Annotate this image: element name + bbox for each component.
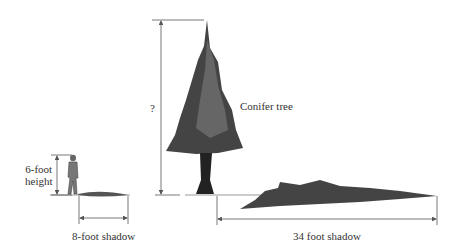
diagram-graphics bbox=[0, 0, 458, 252]
person-shadow-dimension bbox=[79, 196, 128, 224]
tree-shadow-shape bbox=[240, 180, 437, 209]
shadow-diagram: 6-foot height 8-foot shadow ? Conifer tr… bbox=[0, 0, 458, 252]
tree-shadow-label: 34 foot shadow bbox=[293, 230, 361, 242]
person-height-label: 6-foot height bbox=[25, 163, 53, 187]
person-figure bbox=[68, 155, 128, 197]
person-shadow-shape bbox=[78, 192, 128, 197]
person-height-label-line2: height bbox=[25, 175, 53, 187]
conifer-tree bbox=[166, 20, 243, 194]
person-shadow-label: 8-foot shadow bbox=[72, 230, 135, 242]
tree-name-label: Conifer tree bbox=[240, 100, 293, 112]
tree-height-label: ? bbox=[150, 102, 155, 114]
person-height-label-line1: 6-foot bbox=[25, 163, 53, 175]
